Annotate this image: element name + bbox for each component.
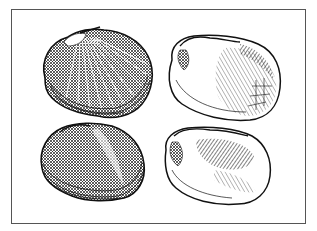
shell-top-right-interior <box>169 35 280 120</box>
shell-top-left-exterior <box>44 27 153 118</box>
shell-plate <box>0 0 317 231</box>
shell-bottom-left-exterior <box>41 123 144 201</box>
shell-bottom-right-interior <box>165 127 270 204</box>
